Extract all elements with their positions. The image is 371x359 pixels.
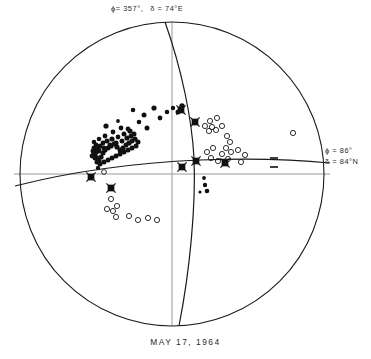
- dilatation-point: [290, 130, 295, 135]
- compression-point: [96, 166, 100, 170]
- dilatation-point: [207, 118, 212, 123]
- axis-marker: [177, 162, 186, 171]
- plane-b-phi: ϕ = 86°: [325, 145, 358, 156]
- dilatation-point: [145, 215, 150, 220]
- axis-marker: [86, 172, 95, 181]
- nodal-plane-b-label: ϕ = 86° δ = 84°N: [325, 145, 358, 167]
- compression-point: [136, 140, 141, 145]
- compression-point: [126, 127, 131, 132]
- plane-a-delta: δ = 74°E: [150, 4, 183, 13]
- compression-point: [116, 119, 120, 123]
- dilatation-point: [126, 213, 131, 218]
- stereonet-plot: [0, 0, 371, 359]
- dilatation-point: [204, 149, 209, 154]
- compression-points-layer: [90, 103, 210, 193]
- compression-point: [142, 113, 147, 118]
- compression-point: [151, 105, 156, 110]
- dilatation-point: [202, 123, 207, 128]
- compression-point: [165, 110, 170, 115]
- dilatation-point: [108, 196, 113, 201]
- dilatation-point: [235, 147, 240, 152]
- axis-marker: [176, 105, 185, 114]
- plot-axes: [14, 22, 330, 326]
- dilatation-point: [114, 203, 119, 208]
- dilatation-point: [154, 217, 159, 222]
- compression-point: [113, 140, 118, 145]
- dilatation-point: [110, 208, 115, 213]
- plane-b-delta: δ = 84°N: [325, 156, 358, 167]
- compression-point: [145, 126, 150, 131]
- axis-marker: [190, 117, 199, 126]
- compression-point: [171, 106, 175, 110]
- dilatation-point: [210, 145, 215, 150]
- compression-point: [202, 176, 206, 180]
- compression-point: [92, 140, 97, 145]
- plane-a-phi: ϕ= 357°,: [111, 4, 143, 13]
- compression-point: [198, 190, 201, 193]
- dilatation-point: [238, 159, 243, 164]
- compression-point: [103, 123, 108, 128]
- focal-mechanism-figure: ϕ= 357°,δ = 74°E ϕ = 86° δ = 84°N MAY 17…: [0, 0, 371, 359]
- dilatation-point: [113, 214, 118, 219]
- compression-point: [119, 126, 124, 131]
- nodal-plane-a-label: ϕ= 357°,δ = 74°E: [111, 4, 183, 13]
- compression-point: [116, 135, 121, 140]
- dilatation-point: [227, 139, 232, 144]
- compression-point: [203, 183, 207, 187]
- dilatation-point: [219, 123, 224, 128]
- figure-caption: MAY 17, 1964: [0, 337, 371, 347]
- compression-point: [124, 135, 129, 140]
- compression-point: [131, 108, 136, 113]
- compression-point: [97, 137, 102, 142]
- axis-marker: [191, 156, 200, 165]
- axis-marker: [106, 183, 115, 192]
- compression-point: [103, 134, 108, 139]
- compression-point: [90, 154, 95, 159]
- compression-point: [111, 130, 116, 135]
- dilatation-point: [135, 217, 140, 222]
- dilatation-point: [213, 127, 218, 132]
- compression-point: [137, 120, 142, 125]
- compression-point: [109, 136, 114, 141]
- dilatation-point: [104, 206, 109, 211]
- compression-point: [120, 139, 125, 144]
- compression-point: [205, 189, 210, 194]
- compression-point: [158, 116, 163, 121]
- axis-marker: [220, 158, 229, 167]
- dilatation-point: [242, 152, 247, 157]
- dilatation-point: [224, 133, 229, 138]
- dilatation-point: [206, 128, 211, 133]
- dilatation-point: [219, 151, 224, 156]
- compression-point: [101, 145, 106, 150]
- dilatation-point: [228, 149, 233, 154]
- compression-point: [132, 132, 137, 137]
- compression-point: [108, 143, 113, 148]
- compression-point: [97, 149, 102, 154]
- dilatation-point: [223, 145, 228, 150]
- dilatation-point: [214, 115, 219, 120]
